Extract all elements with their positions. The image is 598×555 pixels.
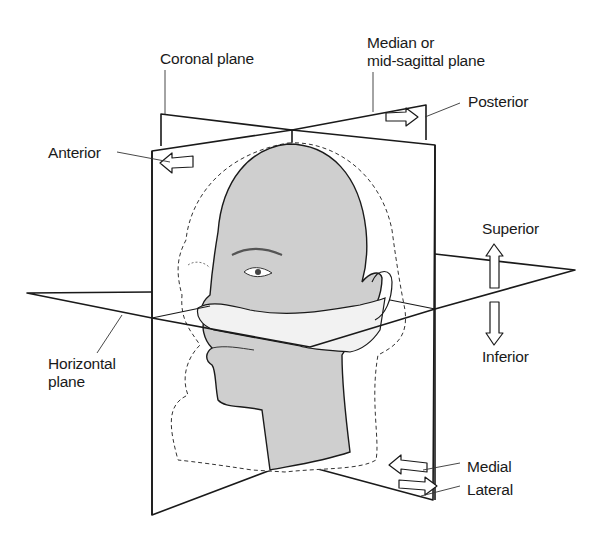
- label-medial: Medial: [467, 458, 511, 475]
- label-posterior: Posterior: [468, 93, 528, 110]
- inferior-arrow-icon: [486, 302, 503, 345]
- anatomical-planes-diagram: Coronal plane Median or mid-sagittal pla…: [0, 0, 598, 555]
- label-inferior: Inferior: [482, 348, 529, 365]
- label-horizontal-line1: Horizontal: [48, 355, 116, 372]
- label-superior: Superior: [482, 220, 539, 237]
- superior-arrow-icon: [486, 244, 503, 288]
- label-coronal-plane: Coronal plane: [160, 50, 254, 67]
- label-median-line1: Median or: [367, 34, 434, 51]
- posterior-arrow-icon: [386, 108, 418, 126]
- label-anterior: Anterior: [48, 144, 101, 161]
- label-median-line2: mid-sagittal plane: [367, 52, 485, 69]
- label-horizontal-line2: plane: [48, 373, 85, 390]
- label-lateral: Lateral: [467, 481, 513, 498]
- head-illustration: [171, 143, 405, 472]
